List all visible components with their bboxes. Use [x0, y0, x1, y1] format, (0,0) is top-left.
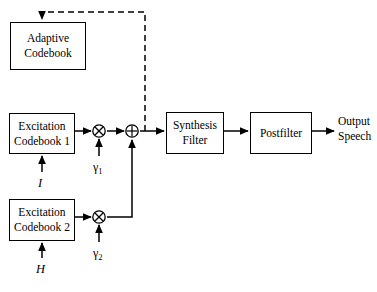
block-synthesis-filter[interactable]: Synthesis Filter [166, 112, 224, 154]
block-excitation-codebook-1[interactable]: Excitation Codebook 1 [9, 113, 75, 154]
block-excitation-codebook-2[interactable]: Excitation Codebook 2 [9, 199, 75, 241]
block-postfilter[interactable]: Postfilter [250, 112, 312, 154]
multiply-operator-icon-gain2[interactable] [91, 209, 107, 225]
block-synthesis-filter-label: Synthesis Filter [170, 118, 220, 147]
block-adaptive-codebook-label: Adaptive Codebook [21, 31, 74, 60]
celp-decoder-diagram: Adaptive Codebook Excitation Codebook 1 … [0, 0, 377, 292]
block-adaptive-codebook[interactable]: Adaptive Codebook [10, 22, 86, 70]
block-excitation-codebook-1-label: Excitation Codebook 1 [11, 119, 73, 148]
block-postfilter-label: Postfilter [257, 126, 305, 141]
output-speech-label: Output Speech [338, 114, 371, 144]
input-index-label-h: H [36, 262, 45, 277]
wire-multiplier2-to-adder [107, 140, 132, 217]
input-index-label-i: I [38, 176, 42, 191]
block-excitation-codebook-2-label: Excitation Codebook 2 [11, 205, 73, 234]
gain-label-gamma-2: γ2 [93, 246, 103, 262]
gain-label-gamma-1: γ1 [93, 160, 103, 176]
multiply-operator-icon-gain1[interactable] [91, 123, 107, 139]
add-operator-icon-summing-junction[interactable] [124, 123, 140, 139]
